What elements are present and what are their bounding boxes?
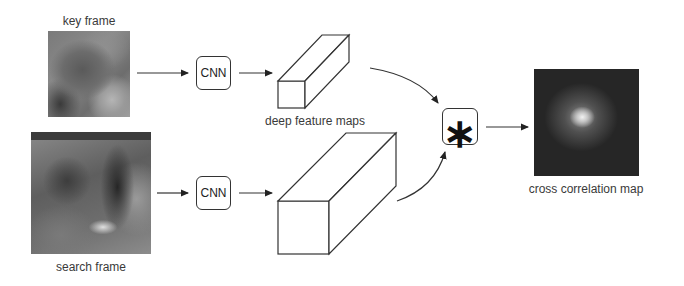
cross-correlation-map-label: cross correlation map (529, 182, 644, 196)
cnn-label: CNN (201, 66, 227, 80)
small-feature-map-cuboid (278, 35, 349, 108)
cnn-label: CNN (201, 186, 227, 200)
arrow-small-features-to-operator (370, 68, 438, 103)
large-feature-map-cuboid (278, 133, 396, 254)
cross-correlation-operator: ∗ (442, 108, 478, 145)
deep-feature-maps-label: deep feature maps (265, 114, 365, 128)
cnn-block-bottom: CNN (196, 176, 231, 210)
cnn-block-top: CNN (196, 56, 231, 90)
asterisk-icon: ∗ (443, 113, 477, 153)
arrow-large-features-to-operator (397, 152, 445, 201)
cross-correlation-map-image (534, 69, 639, 176)
